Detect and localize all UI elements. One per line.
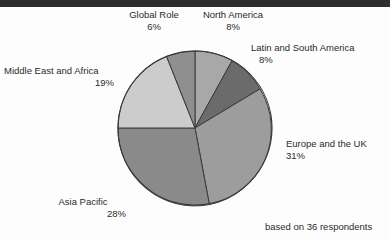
screenshot-root: Global Role 6% North America 8% Latin an… <box>0 0 390 239</box>
pie-label-middle-east-and-africa-name: Middle East and Africa <box>4 65 114 77</box>
pie-label-global-role-name: Global Role <box>129 9 179 20</box>
pie-label-latin-and-south-america-value: 8% <box>251 54 387 66</box>
pie-label-asia-pacific-value: 28% <box>40 208 126 220</box>
pie-label-middle-east-and-africa-value: 19% <box>4 77 114 89</box>
pie-label-global-role-value: 6% <box>118 21 190 33</box>
pie-label-latin-and-south-america: Latin and South America 8% <box>251 42 387 65</box>
window-header-band <box>0 0 390 7</box>
pie-slice-asia-pacific[interactable] <box>118 128 209 206</box>
pie-label-latin-and-south-america-name: Latin and South America <box>251 42 355 53</box>
pie-chart: Global Role 6% North America 8% Latin an… <box>0 7 390 239</box>
pie-label-europe-and-the-uk-name: Europe and the UK <box>286 138 367 149</box>
pie-label-global-role: Global Role 6% <box>118 9 190 32</box>
pie-label-asia-pacific-name: Asia Pacific <box>40 196 126 208</box>
pie-label-middle-east-and-africa: Middle East and Africa 19% <box>4 65 114 88</box>
pie-label-north-america: North America 8% <box>193 9 273 32</box>
pie-label-asia-pacific: Asia Pacific 28% <box>40 196 126 219</box>
pie-label-north-america-name: North America <box>203 9 263 20</box>
pie-label-europe-and-the-uk: Europe and the UK 31% <box>286 138 386 161</box>
chart-footnote: based on 36 respondents <box>265 221 372 232</box>
pie-label-north-america-value: 8% <box>193 21 273 33</box>
pie-label-europe-and-the-uk-value: 31% <box>286 150 386 162</box>
